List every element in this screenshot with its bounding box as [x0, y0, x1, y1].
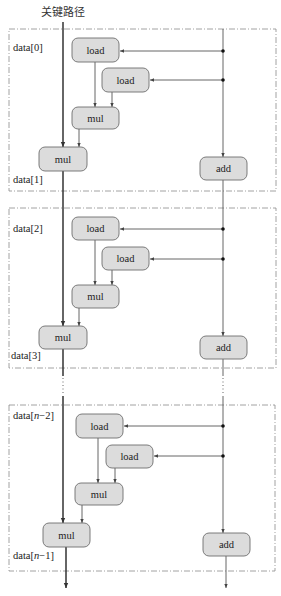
branch-dot — [221, 424, 225, 428]
label-data-n-1: data[n−1] — [13, 550, 54, 561]
node-mul-0b: mul — [39, 147, 87, 171]
node-mul-na: mul — [75, 483, 123, 505]
label-data-2: data[2] — [13, 223, 43, 234]
svg-text:mul: mul — [58, 530, 74, 541]
svg-text:load: load — [116, 253, 135, 264]
iteration-n-edges — [82, 424, 225, 523]
branch-dot — [221, 454, 225, 458]
svg-text:mul: mul — [87, 291, 103, 302]
node-mul-1a: mul — [72, 285, 119, 308]
critical-path-title: 关键路径 — [41, 5, 85, 19]
node-add-0: add — [200, 157, 247, 180]
svg-text:load: load — [90, 421, 109, 432]
branch-dot — [221, 257, 225, 261]
iteration-0-edges — [79, 49, 225, 147]
branch-dot — [221, 49, 225, 53]
node-load-1b: load — [102, 247, 149, 270]
node-add-n: add — [203, 533, 250, 556]
node-mul-nb: mul — [43, 523, 90, 547]
label-data-n-2: data[n−2] — [13, 410, 54, 421]
svg-text:load: load — [86, 223, 105, 234]
svg-text:add: add — [216, 342, 232, 353]
label-data-0: data[0] — [13, 42, 43, 53]
svg-text:mul: mul — [55, 332, 71, 343]
svg-text:mul: mul — [55, 154, 71, 165]
critical-path-line — [63, 22, 66, 588]
svg-text:add: add — [219, 539, 235, 550]
branch-dot — [221, 78, 225, 82]
svg-text:mul: mul — [91, 489, 107, 500]
node-mul-1b: mul — [39, 326, 87, 349]
node-add-1: add — [200, 336, 247, 359]
svg-text:add: add — [216, 163, 232, 174]
node-load-na: load — [76, 414, 123, 438]
iteration-1-edges — [79, 227, 225, 326]
node-load-1a: load — [72, 217, 119, 240]
node-load-0a: load — [72, 38, 119, 62]
critical-path-diagram: 关键路径 data[0] data[1] data[2] data[3] dat… — [0, 0, 281, 596]
branch-dot — [221, 227, 225, 231]
node-mul-0a: mul — [72, 107, 119, 129]
svg-text:load: load — [86, 45, 105, 56]
svg-text:mul: mul — [87, 113, 103, 124]
label-data-3: data[3] — [11, 350, 41, 361]
node-load-nb: load — [106, 445, 153, 468]
svg-text:load: load — [116, 75, 135, 86]
svg-text:load: load — [120, 451, 139, 462]
node-load-0b: load — [102, 68, 149, 92]
label-data-1: data[1] — [13, 174, 43, 185]
accumulator-line — [223, 29, 226, 588]
